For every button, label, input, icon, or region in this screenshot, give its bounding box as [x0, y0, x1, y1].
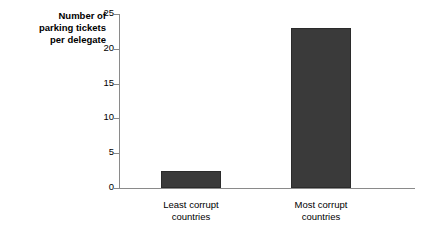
x-tick-label-line: countries [131, 211, 251, 223]
y-tick-mark [114, 84, 119, 85]
y-tick-mark [114, 153, 119, 154]
x-tick-label: Least corruptcountries [131, 199, 251, 223]
bar-chart: Number of parking tickets per delegate 2… [0, 0, 422, 233]
y-axis-tick-labels: 2520151050 [64, 14, 114, 189]
x-tick-label-line: Least corrupt [131, 199, 251, 211]
bar [161, 171, 221, 188]
x-tick-label: Most corruptcountries [261, 199, 381, 223]
y-tick-label: 0 [74, 182, 114, 192]
y-tick-mark [114, 49, 119, 50]
y-tick-label: 25 [74, 8, 114, 18]
bar [291, 28, 351, 188]
plot-area: 2520151050 [119, 14, 415, 188]
x-tick-label-line: Most corrupt [261, 199, 381, 211]
x-axis-line [119, 188, 415, 189]
y-tick-mark [114, 188, 119, 189]
x-tick-label-line: countries [261, 211, 381, 223]
y-tick-label: 5 [74, 147, 114, 157]
y-tick-label: 10 [74, 112, 114, 122]
y-tick-mark [114, 14, 119, 15]
y-axis-line [119, 14, 120, 189]
y-tick-mark [114, 118, 119, 119]
y-tick-label: 20 [74, 43, 114, 53]
y-tick-label: 15 [74, 78, 114, 88]
